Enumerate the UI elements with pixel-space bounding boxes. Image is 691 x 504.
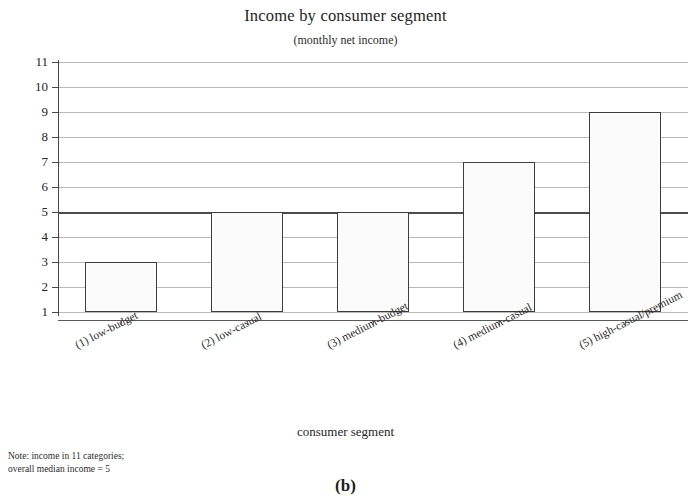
y-axis-tick-label: 7 [22, 155, 48, 168]
y-axis-tick-mark [52, 87, 58, 88]
y-axis-tick-mark [52, 262, 58, 263]
y-axis-tick-mark [52, 287, 58, 288]
bar [85, 262, 156, 312]
x-axis-title: consumer segment [0, 424, 691, 440]
y-axis-spine [58, 60, 59, 316]
x-axis-category-label: (1) low-budget [73, 309, 140, 351]
y-axis-tick-mark [52, 62, 58, 63]
figure-panel: Income by consumer segment (monthly net … [0, 0, 691, 504]
chart-note: Note: income in 11 categories; overall m… [8, 450, 124, 476]
y-axis-tick-label: 10 [22, 80, 48, 93]
y-axis-tick-label: 4 [22, 230, 48, 243]
y-axis-tick-mark [52, 162, 58, 163]
gridline [58, 87, 688, 88]
y-axis-tick-label: 2 [22, 280, 48, 293]
bar [337, 212, 408, 312]
y-axis-tick-label: 11 [22, 55, 48, 68]
y-axis-tick-mark [52, 237, 58, 238]
y-axis-tick-mark [52, 187, 58, 188]
gridline [58, 62, 688, 63]
y-axis-tick-mark [52, 137, 58, 138]
y-axis-tick-mark [52, 212, 58, 213]
plot-area [58, 62, 688, 312]
y-axis-tick-mark [52, 112, 58, 113]
y-axis-tick-label: 6 [22, 180, 48, 193]
x-axis-category-label: (2) low-casual [199, 310, 263, 351]
chart-title: Income by consumer segment [0, 6, 691, 26]
y-axis-tick-label: 9 [22, 105, 48, 118]
figure-caption: (b) [0, 476, 691, 496]
y-axis-tick-label: 5 [22, 205, 48, 218]
bar [463, 162, 534, 312]
y-axis-tick-label: 3 [22, 255, 48, 268]
bar [211, 212, 282, 312]
gridline [58, 312, 688, 313]
y-axis-tick-label: 1 [22, 305, 48, 318]
y-axis-tick-mark [52, 312, 58, 313]
bar [589, 112, 660, 312]
chart-subtitle: (monthly net income) [0, 33, 691, 48]
y-axis-tick-label: 8 [22, 130, 48, 143]
